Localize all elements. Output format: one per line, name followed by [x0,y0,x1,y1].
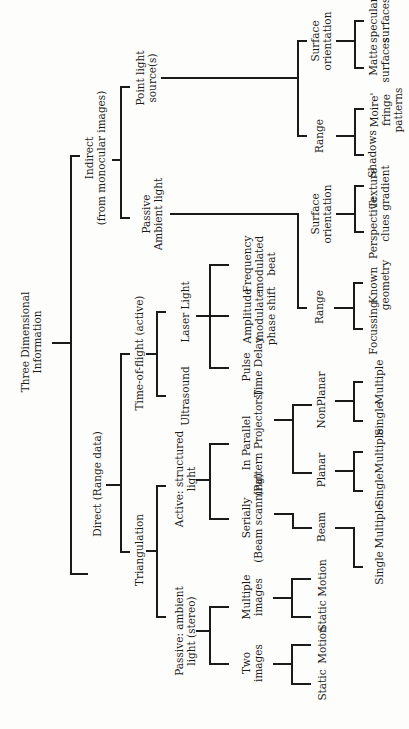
connector [196,315,210,317]
node-passive-ambient: Passive Ambient light [140,178,164,251]
connector [209,663,229,665]
node-two-images: Two images [240,644,264,682]
node-moire: Moire' fringe patterns [368,88,404,133]
connector [156,485,158,617]
node-active-structured: Active: structured light [173,431,197,527]
connector [209,315,229,317]
connector [209,367,229,369]
node-texture: Texture gradient [367,165,391,210]
node-multi-motion: Motion [316,559,328,597]
connector [291,644,311,646]
connector [156,311,158,396]
connector [52,342,70,344]
connector [336,40,356,42]
connector [120,86,122,218]
connector [353,381,355,421]
connector [354,154,364,156]
connector [291,578,293,617]
node-amplitude: Amplitude modulate phase shift [241,287,277,345]
connector [120,217,130,219]
node-planar: Planar [315,453,327,488]
connector [336,213,356,215]
connector [297,40,299,137]
connector [209,443,211,519]
connector [334,307,354,309]
connector [209,518,229,520]
connector [353,566,363,568]
connector [292,404,294,473]
connector [335,527,355,529]
node-pl-surface-orientation: Surface orientation [309,12,333,71]
connector [120,551,130,553]
connector [161,77,298,79]
connector [354,67,364,69]
node-pa-range: Range [313,290,325,324]
connector [354,108,356,155]
node-matte: Matte surfaces [367,38,391,83]
connector [353,282,355,330]
connector [209,264,229,266]
node-specular: specular surfaces [367,0,391,43]
connector [209,443,229,445]
node-nonplanar-single: Single [373,402,385,436]
connector [353,328,363,330]
node-point-light: Point light source(s) [134,50,158,105]
connector [274,419,294,421]
connector [353,527,355,567]
connector [297,135,307,137]
node-root: Three Dimensional Information [19,292,43,393]
connector [120,353,122,553]
node-pl-range: Range [313,119,325,153]
connector [353,381,363,383]
node-pulse: Pulse Time Delay [240,337,264,397]
connector [297,213,299,308]
diagram-canvas: Three Dimensional Information Indirect (… [0,0,409,729]
node-multiple-images: Multiple images [240,575,264,620]
connector [120,86,130,88]
node-time-of-flight: Time-of-flight (active) [133,296,145,411]
connector [120,353,130,355]
connector [291,683,311,685]
connector [354,185,356,232]
connector [209,606,211,664]
connector [196,630,210,632]
connector [353,490,363,492]
connector [354,231,364,233]
connector [156,311,166,313]
connector [297,307,307,309]
node-laser-light: Laser Light [179,281,191,342]
connector [335,470,355,472]
node-beam-multiple: Multiple [373,504,385,549]
connector [291,616,311,618]
connector [291,644,293,684]
node-direct: Direct (Range data) [91,431,103,537]
node-known-geometry: Known geometry [367,260,391,311]
connector [354,185,364,187]
connector [273,663,293,665]
connector [156,395,166,397]
connector [336,135,356,137]
node-nonplanar-multiple: Multiple [373,360,385,405]
connector [353,451,355,491]
connector [70,155,80,157]
connector [335,400,355,402]
node-indirect: Indirect (from monocular images) [83,91,107,226]
connector [297,40,307,42]
node-pa-surface-orientation: Surface orientation [309,185,333,244]
node-beam-single: Single [373,551,385,585]
connector [353,420,363,422]
connector [196,479,210,481]
node-two-motion: Motion [316,626,328,664]
connector [156,485,166,487]
connector [70,573,88,575]
connector [292,404,312,406]
connector [156,616,166,618]
node-in-parallel: In Parallel (Pattern Projectors) [240,390,264,496]
connector [292,472,312,474]
connector [291,578,311,580]
connector [353,282,363,284]
node-nonplanar: NonPlanar [315,372,327,429]
node-two-static: Static [316,669,328,700]
node-ultrasound: Ultrasound [179,366,191,426]
connector [354,20,364,22]
